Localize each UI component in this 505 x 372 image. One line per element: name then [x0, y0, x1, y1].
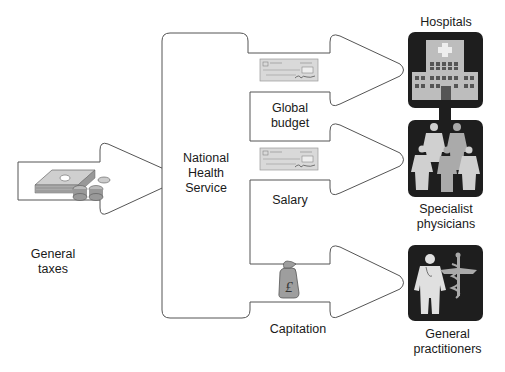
cheque-icon [260, 148, 318, 170]
label-line: Capitation [258, 322, 338, 337]
label-line: Health [168, 166, 244, 181]
label-line: practitioners [400, 342, 495, 357]
pound-sign: £ [285, 279, 293, 295]
hospitals-label: Hospitals [405, 15, 487, 30]
label-line: General [18, 247, 88, 262]
label-line: taxes [18, 262, 88, 277]
label-line: Specialist [400, 202, 492, 217]
label-line: budget [258, 116, 322, 131]
cheque-icon [260, 59, 318, 81]
doctor-caduceus-icon [408, 245, 483, 321]
specialist-physicians-label: Specialist physicians [400, 202, 492, 232]
label-line: National [168, 151, 244, 166]
label-line: Global [258, 101, 322, 116]
diagram-canvas: £ [0, 0, 505, 372]
label-line: Salary [258, 193, 322, 208]
physicians-group-icon [408, 120, 483, 197]
connector-bar [439, 106, 451, 122]
hospital-icon [408, 32, 483, 108]
salary-label: Salary [258, 193, 322, 208]
label-line: General [400, 327, 495, 342]
label-line: Service [168, 181, 244, 196]
nhs-label: National Health Service [168, 151, 244, 196]
global-budget-label: Global budget [258, 101, 322, 131]
capitation-label: Capitation [258, 322, 338, 337]
general-taxes-label: General taxes [18, 247, 88, 277]
general-practitioners-label: General practitioners [400, 327, 495, 357]
label-line: physicians [400, 217, 492, 232]
label-line: Hospitals [405, 15, 487, 30]
